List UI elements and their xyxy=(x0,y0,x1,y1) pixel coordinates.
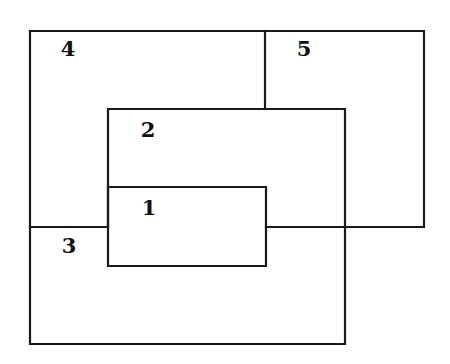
region-label-4: 4 xyxy=(61,38,76,59)
region-1-boundary xyxy=(108,187,266,266)
region-label-2: 2 xyxy=(141,119,156,140)
region-label-3: 3 xyxy=(62,235,77,256)
region-label-5: 5 xyxy=(297,38,312,59)
region-label-1: 1 xyxy=(142,197,157,218)
